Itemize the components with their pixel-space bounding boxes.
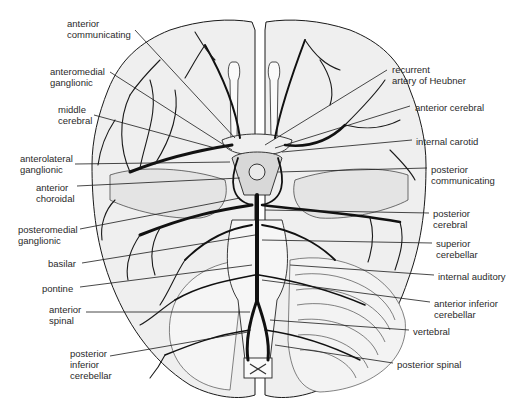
label-anterior-spinal: anterior spinal — [49, 304, 81, 326]
label-anteromedial-ganglionic: anteromedial ganglionic — [50, 66, 105, 88]
label-posterior-cerebral: posterior cerebral — [433, 208, 470, 230]
label-superior-cerebellar: superior cerebellar — [436, 238, 478, 260]
label-anterolateral-ganglionic: anterolateral ganglionic — [20, 153, 73, 175]
label-posterior-spinal: posterior spinal — [397, 359, 461, 370]
label-posteromedial-ganglionic: posteromedial ganglionic — [18, 224, 78, 246]
label-internal-auditory: internal auditory — [438, 271, 506, 282]
label-pontine: pontine — [42, 283, 73, 294]
label-middle-cerebral: middle cerebral — [58, 104, 92, 126]
label-recurrent-artery-of-heubner: recurrent artery of Heubner — [392, 64, 466, 86]
label-anterior-inferior-cerebellar: anterior inferior cerebellar — [434, 298, 498, 320]
label-vertebral: vertebral — [413, 326, 450, 337]
label-basilar: basilar — [48, 258, 76, 269]
label-internal-carotid: internal carotid — [416, 136, 478, 147]
label-anterior-communicating: anterior communicating — [67, 18, 137, 40]
label-anterior-cerebral: anterior cerebral — [415, 102, 484, 113]
label-posterior-inferior-cerebellar: posterior inferior cerebellar — [70, 348, 112, 381]
brain-arteries-diagram: anterior communicating anteromedial gang… — [0, 0, 524, 415]
label-anterior-choroidal: anterior choroidal — [36, 182, 75, 204]
label-posterior-communicating: posterior communicating — [431, 164, 495, 186]
